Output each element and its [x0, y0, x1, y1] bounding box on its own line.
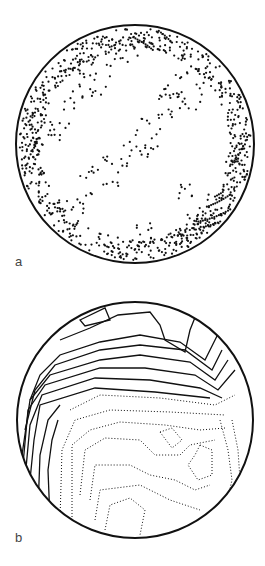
panel-a: a: [0, 0, 265, 280]
panel-b: b: [0, 280, 265, 556]
panel-label-a: a: [15, 254, 22, 269]
figure-caption-cutoff: [0, 556, 265, 566]
panel-label-b: b: [15, 530, 22, 545]
stereonet-point-plot: [0, 0, 265, 280]
stereonet-contour-plot: [0, 280, 265, 556]
